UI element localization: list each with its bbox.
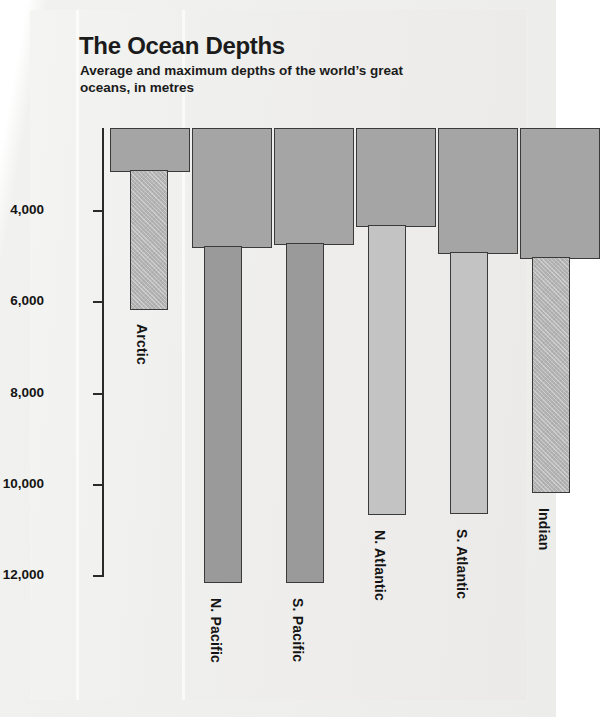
category-label-indian: Indian <box>536 508 552 550</box>
bar-average-depth <box>192 128 272 248</box>
bar-maximum-depth <box>450 252 488 514</box>
y-tick-label: 8,000 <box>0 385 44 400</box>
y-tick-mark <box>93 575 104 577</box>
bar-average-depth <box>274 128 354 245</box>
bar-maximum-depth <box>286 243 324 583</box>
y-tick-mark <box>93 484 104 486</box>
bar-maximum-depth <box>130 170 168 310</box>
bar-average-depth <box>438 128 518 254</box>
bar-average-depth <box>110 128 190 172</box>
chart-subtitle: Average and maximum depths of the world’… <box>80 62 410 96</box>
bar-average-depth <box>520 128 600 259</box>
bar-maximum-depth <box>368 225 406 515</box>
scan-band <box>76 10 79 700</box>
category-label-arctic: Arctic <box>134 324 150 365</box>
y-axis-line <box>102 128 104 576</box>
plot-area: 4,0006,0008,00010,00012,000 ArcticN. Pac… <box>80 128 520 588</box>
y-tick-label: 10,000 <box>0 476 44 491</box>
chart-title: The Ocean Depths <box>79 32 285 60</box>
y-tick-mark <box>93 393 104 395</box>
y-tick-label: 6,000 <box>0 293 44 308</box>
category-label-s-pacific: S. Pacific <box>290 598 306 662</box>
y-tick-label: 4,000 <box>0 202 44 217</box>
bar-average-depth <box>356 128 436 227</box>
bar-maximum-depth <box>532 257 570 493</box>
bar-maximum-depth <box>204 246 242 583</box>
category-label-n-pacific: N. Pacific <box>208 598 224 663</box>
category-label-n-atlantic: N. Atlantic <box>372 530 388 601</box>
category-label-s-atlantic: S. Atlantic <box>454 529 470 599</box>
y-tick-mark <box>93 210 104 212</box>
y-tick-mark <box>93 301 104 303</box>
y-tick-label: 12,000 <box>0 567 44 582</box>
